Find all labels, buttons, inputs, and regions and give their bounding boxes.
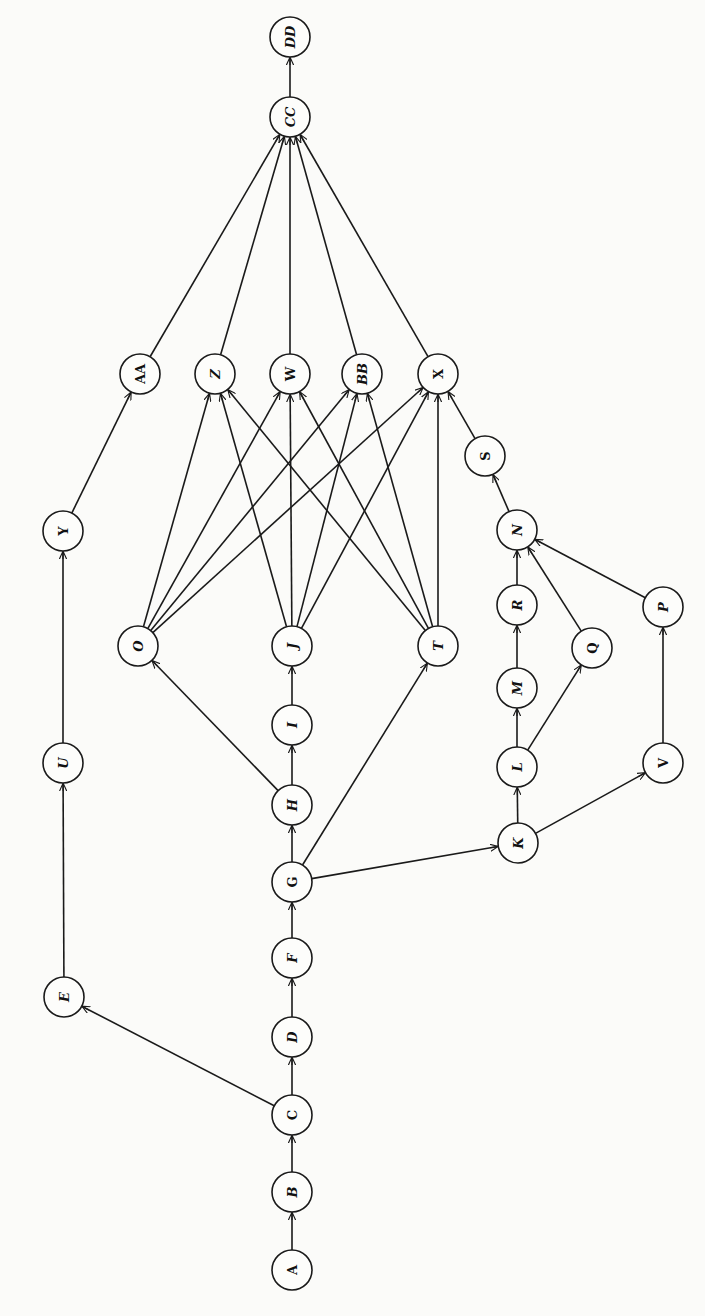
node-label: AA <box>133 363 148 385</box>
nodes-layer: ABCDEFGHIJKLMNOPQRSTUVWXYZAABBCCDD <box>43 17 683 1290</box>
node-k: K <box>498 823 538 863</box>
edge-e-to-u <box>63 783 64 977</box>
node-label: O <box>131 640 146 652</box>
node-label: N <box>510 523 525 537</box>
node-b: B <box>272 1172 312 1212</box>
edge-x-to-cc <box>300 135 428 357</box>
node-bb: BB <box>342 354 382 394</box>
node-label: P <box>656 601 671 613</box>
node-a: A <box>272 1250 312 1290</box>
node-r: R <box>497 585 537 625</box>
node-label: Y <box>56 526 71 537</box>
edge-c-to-e <box>82 1006 274 1105</box>
node-v: V <box>643 743 683 783</box>
edge-l-to-q <box>528 665 581 750</box>
node-i: I <box>272 705 312 745</box>
node-label: B <box>285 1187 300 1199</box>
node-q: Q <box>572 628 612 668</box>
directed-graph-diagram: ABCDEFGHIJKLMNOPQRSTUVWXYZAABBCCDD <box>0 0 705 1316</box>
node-d: D <box>272 1017 312 1057</box>
node-label: DD <box>283 25 298 49</box>
edge-j-to-w <box>290 394 292 626</box>
edge-aa-to-cc <box>150 135 280 357</box>
node-label: K <box>511 837 526 850</box>
node-label: L <box>510 762 525 772</box>
node-g: G <box>272 862 312 902</box>
node-label: W <box>283 366 298 382</box>
node-f: F <box>272 938 312 978</box>
edge-o-to-z <box>143 394 209 627</box>
node-label: Q <box>585 642 600 653</box>
edge-bb-to-cc <box>296 137 357 355</box>
edge-k-to-v <box>536 773 646 833</box>
node-label: U <box>56 757 71 769</box>
node-n: N <box>497 510 537 550</box>
node-label: M <box>510 680 525 696</box>
node-label: Z <box>208 369 223 380</box>
node-label: C <box>285 1110 300 1120</box>
node-c: C <box>272 1095 312 1135</box>
node-label: F <box>285 953 300 964</box>
node-label: V <box>656 757 671 769</box>
node-h: H <box>272 785 312 825</box>
node-aa: AA <box>120 354 160 394</box>
edge-t-to-bb <box>368 394 433 627</box>
edge-j-to-z <box>221 394 287 627</box>
node-p: P <box>643 587 683 627</box>
edge-y-to-aa <box>72 392 131 513</box>
node-s: S <box>465 436 505 476</box>
edge-t-to-z <box>228 390 425 631</box>
edge-h-to-o <box>152 661 278 791</box>
edge-g-to-k <box>312 846 498 878</box>
node-label: I <box>285 721 300 729</box>
node-y: Y <box>43 511 83 551</box>
node-z: Z <box>195 354 235 394</box>
node-m: M <box>497 668 537 708</box>
edge-s-to-x <box>448 392 475 439</box>
node-label: G <box>285 876 300 887</box>
node-w: W <box>270 354 310 394</box>
node-label: R <box>510 599 525 611</box>
node-j: J <box>272 626 312 666</box>
node-t: T <box>418 626 458 666</box>
node-o: O <box>118 626 158 666</box>
node-e: E <box>44 977 84 1017</box>
edge-g-to-t <box>303 663 428 865</box>
edge-z-to-cc <box>221 137 285 355</box>
node-label: H <box>285 798 300 812</box>
node-label: D <box>285 1031 300 1044</box>
edge-o-to-x <box>153 388 423 633</box>
node-label: E <box>57 991 72 1003</box>
node-label: BB <box>355 363 370 386</box>
edge-p-to-n <box>535 540 645 598</box>
node-label: T <box>431 640 446 651</box>
node-dd: DD <box>270 17 310 57</box>
node-u: U <box>43 743 83 783</box>
node-x: X <box>418 354 458 394</box>
node-label: X <box>431 368 446 379</box>
node-cc: CC <box>270 97 310 137</box>
node-label: CC <box>283 106 298 127</box>
node-l: L <box>497 747 537 787</box>
node-label: A <box>285 1264 300 1276</box>
edge-n-to-s <box>493 475 509 512</box>
edge-o-to-w <box>148 392 280 629</box>
node-label: S <box>478 451 493 460</box>
